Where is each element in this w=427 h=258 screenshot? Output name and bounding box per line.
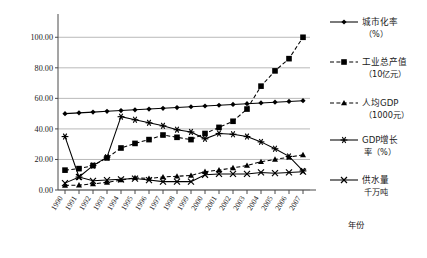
x-axis-title: 年份 (348, 220, 365, 230)
legend-label-line1: 人均GDP (362, 97, 398, 108)
y-axis-tick-label: 20.00 (35, 155, 53, 164)
y-axis-tick-label: 80.00 (35, 64, 53, 73)
y-axis-tick-label: 100.00 (30, 33, 53, 42)
y-axis-tick-label: 60.00 (35, 94, 53, 103)
legend-label-line1: 供水量 (362, 174, 389, 185)
y-axis-tick-label: 40.00 (35, 125, 53, 134)
chart-container: 0.0020.0040.0060.0080.00100.00 199019911… (0, 0, 427, 258)
legend-label-line2: （%） (364, 29, 388, 39)
legend-label-line1: GDP增长 (362, 134, 398, 145)
legend-label-line2: （1000元） (364, 110, 409, 120)
legend-label-line2: 千万吨 (364, 187, 388, 197)
legend-label-line2: （10亿元） (364, 69, 406, 79)
legend-label-line2: 率（%） (364, 147, 396, 157)
legend-label-line1: 城市化率 (362, 16, 398, 27)
line-chart: 0.0020.0040.0060.0080.00100.00 199019911… (0, 0, 427, 258)
y-axis-tick-label: 0.00 (39, 186, 53, 195)
legend-label-line1: 工业总产值 (362, 56, 407, 67)
